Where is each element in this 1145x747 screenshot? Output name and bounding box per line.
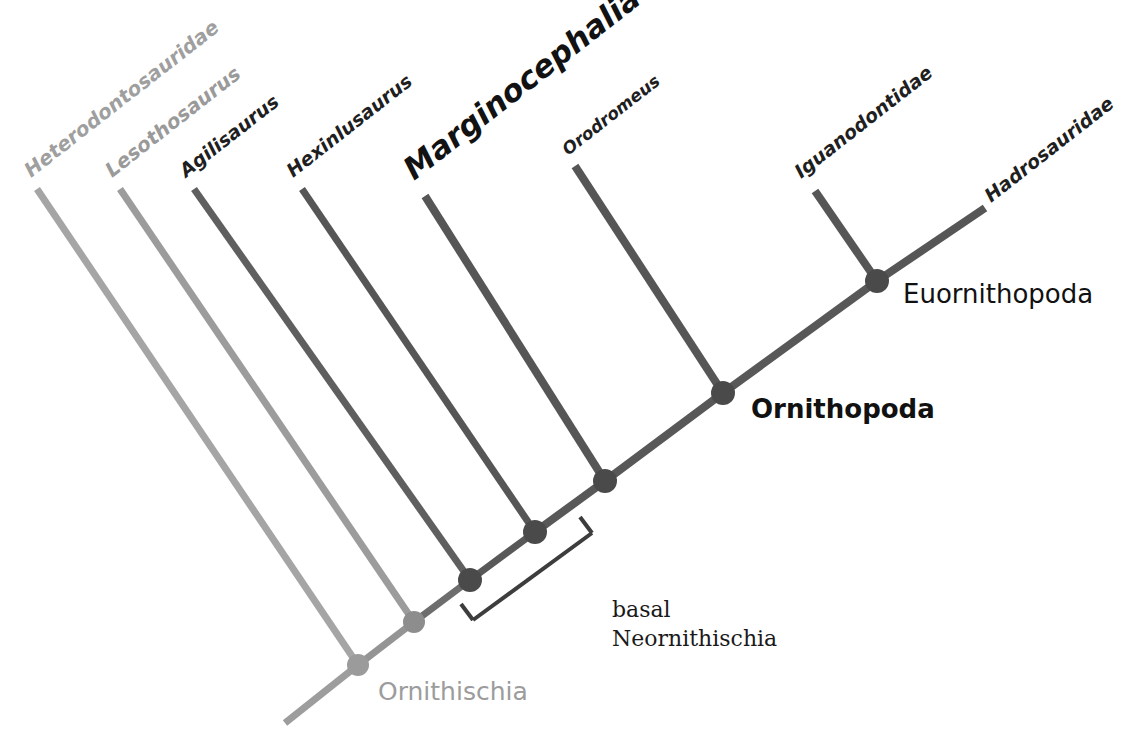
node-dot-node-marginocephalia[interactable] [593, 469, 617, 493]
node-dot-node-lesothosaurus[interactable] [403, 611, 425, 633]
node-dot-ornithischia[interactable] [347, 654, 369, 676]
node-dot-ornithopoda[interactable] [711, 381, 735, 405]
clade-label-ornithopoda: Ornithopoda [751, 394, 935, 424]
bracket-label-line-2: Neornithischia [612, 626, 777, 651]
bracket-label-line-1: basal [612, 597, 671, 622]
clade-label-ornithischia: Ornithischia [378, 677, 528, 706]
clade-label-euornithopoda: Euornithopoda [903, 279, 1093, 309]
cladogram-diagram: HeterodontosauridaeLesothosaurusAgilisau… [0, 0, 1145, 747]
node-dot-euornithopoda[interactable] [865, 269, 889, 293]
node-dot-node-agilisaurus[interactable] [458, 568, 482, 592]
node-dot-node-hexinlusaurus[interactable] [523, 520, 547, 544]
cladogram-canvas: HeterodontosauridaeLesothosaurusAgilisau… [0, 0, 1145, 747]
